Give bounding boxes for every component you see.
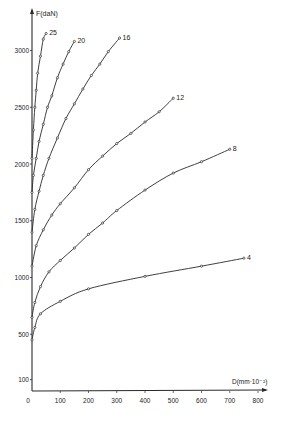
data-point-marker [35, 89, 37, 91]
data-point-marker [45, 32, 47, 34]
data-point-marker [130, 132, 132, 134]
x-tick-label: 100 [55, 397, 66, 404]
data-point-marker [34, 301, 36, 303]
y-axis-arrow-icon [30, 8, 34, 14]
data-point-marker [158, 111, 160, 113]
data-point-marker [46, 106, 48, 108]
series-12: 12 [31, 94, 184, 267]
data-point-marker [37, 72, 39, 74]
data-point-marker [172, 172, 174, 174]
data-point-marker [42, 174, 44, 176]
curve-label: 16 [123, 34, 131, 41]
x-axis-line [32, 390, 266, 391]
data-point-marker [65, 118, 67, 120]
x-tick-label: 300 [111, 397, 122, 404]
data-point-marker [118, 37, 120, 39]
data-point-marker [99, 63, 101, 65]
data-point-marker [144, 189, 146, 191]
data-point-marker [200, 161, 202, 163]
data-point-marker [35, 245, 37, 247]
data-point-marker [200, 265, 202, 267]
data-point-marker [87, 233, 89, 235]
data-point-marker [73, 103, 75, 105]
x-tick-label: 400 [140, 397, 151, 404]
x-tick-label: 700 [224, 397, 235, 404]
data-point-marker [87, 169, 89, 171]
data-point-marker [68, 51, 70, 53]
x-tick-label: 200 [83, 397, 94, 404]
curve-line [32, 98, 173, 266]
series-8: 8 [31, 145, 237, 318]
data-point-marker [144, 275, 146, 277]
data-point-marker [38, 140, 40, 142]
x-tick-label: 500 [168, 397, 179, 404]
x-tick-label: 800 [253, 397, 264, 404]
data-point-marker [116, 209, 118, 211]
data-point-marker [35, 157, 37, 159]
data-point-marker [32, 129, 34, 131]
data-point-marker [31, 265, 33, 267]
series-4: 4 [31, 254, 251, 341]
curve-label: 4 [247, 254, 251, 261]
data-point-marker [73, 247, 75, 249]
x-axis-label: D(mm·10⁻²) [232, 378, 267, 386]
y-tick-label: 500 [18, 331, 29, 338]
force-displacement-chart: 1005001000150020002500300010020030040050… [0, 0, 287, 421]
y-tick-label: 3000 [15, 47, 30, 54]
curve-label: 25 [49, 29, 57, 36]
data-point-marker [34, 208, 36, 210]
y-tick-label: 2000 [15, 161, 30, 168]
curve-label: 20 [77, 37, 85, 44]
data-point-marker [102, 222, 104, 224]
data-point-marker [87, 288, 89, 290]
series-16: 16 [31, 34, 131, 233]
curve-line [32, 149, 230, 317]
data-point-marker [34, 106, 36, 108]
curve-label: 8 [233, 145, 237, 152]
y-tick-label: 2500 [15, 104, 30, 111]
data-point-marker [116, 142, 118, 144]
data-point-marker [31, 191, 33, 193]
data-point-marker [90, 74, 92, 76]
data-point-marker [39, 55, 41, 57]
chart-svg: 1005001000150020002500300010020030040050… [0, 0, 287, 421]
data-point-marker [73, 40, 75, 42]
x-axis-arrow-icon [262, 388, 268, 392]
origin-label: 0 [26, 397, 30, 404]
data-point-marker [48, 157, 50, 159]
curve-line [32, 38, 120, 232]
data-point-marker [172, 97, 174, 99]
y-tick-label: 1000 [15, 274, 30, 281]
data-point-marker [51, 95, 53, 97]
data-point-marker [39, 313, 41, 315]
data-point-marker [56, 137, 58, 139]
data-point-marker [42, 123, 44, 125]
data-point-marker [62, 63, 64, 65]
data-point-marker [243, 257, 245, 259]
x-tick-label: 600 [196, 397, 207, 404]
axes: 1005001000150020002500300010020030040050… [15, 8, 268, 404]
data-point-marker [31, 339, 33, 341]
y-tick-label: 1500 [15, 217, 30, 224]
curve-line [32, 41, 74, 192]
curve-label: 12 [176, 94, 184, 101]
data-point-marker [42, 38, 44, 40]
data-point-marker [42, 229, 44, 231]
data-point-marker [31, 157, 33, 159]
data-point-marker [229, 148, 231, 150]
data-point-marker [31, 316, 33, 318]
data-point-marker [102, 155, 104, 157]
curve-line [32, 258, 244, 340]
series-25: 25 [31, 29, 57, 159]
data-point-marker [59, 259, 61, 261]
data-point-marker [39, 285, 41, 287]
data-point-marker [59, 300, 61, 302]
data-point-marker [38, 190, 40, 192]
data-point-marker [32, 174, 34, 176]
data-point-marker [56, 77, 58, 79]
data-point-marker [144, 121, 146, 123]
data-point-marker [51, 214, 53, 216]
y-tick-label: 100 [18, 376, 29, 383]
data-point-marker [31, 231, 33, 233]
data-point-marker [59, 203, 61, 205]
